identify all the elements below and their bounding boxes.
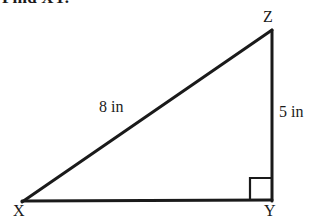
side-xy-base-leg-line — [22, 200, 272, 201]
side-length-label-xz: 8 in — [99, 99, 123, 115]
figure-page: Find XY. Z X Y 8 in 5 in — [0, 0, 318, 223]
side-xz-hypotenuse-line — [22, 30, 272, 202]
vertex-label-x: X — [13, 203, 25, 219]
side-length-label-yz: 5 in — [279, 104, 303, 120]
vertex-label-y: Y — [264, 203, 276, 219]
right-triangle-diagram — [0, 0, 318, 223]
right-angle-marker — [250, 178, 271, 199]
vertex-label-z: Z — [263, 9, 273, 25]
